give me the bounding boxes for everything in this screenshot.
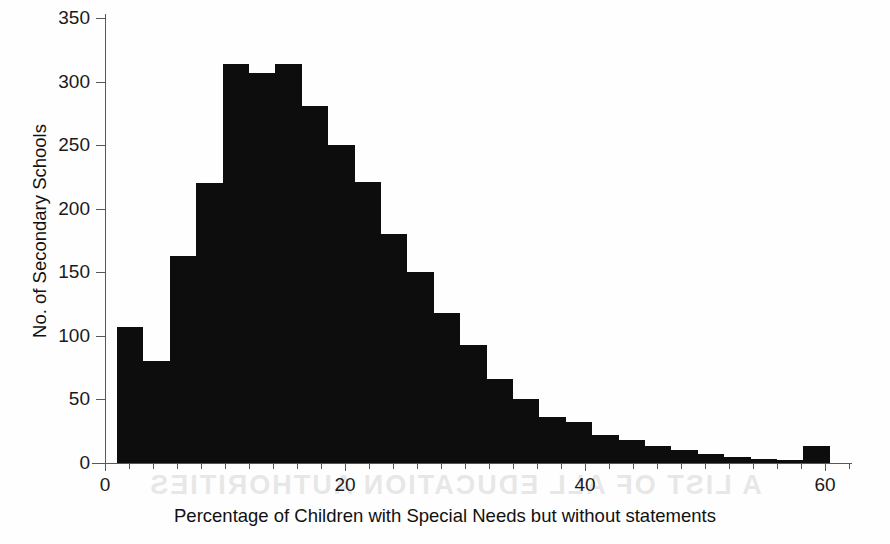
x-axis-minor-tick [465,463,466,469]
histogram-bar [170,256,196,463]
histogram-bar [487,379,513,463]
histogram-bar [803,446,829,463]
x-axis-minor-tick [321,463,322,469]
x-axis-minor-tick [681,463,682,469]
x-axis-minor-tick [777,463,778,469]
x-axis-major-tick [105,463,106,471]
histogram-bar [671,450,697,463]
x-axis-minor-tick [849,463,850,469]
y-axis-tick [96,336,105,337]
x-axis-minor-tick [753,463,754,469]
y-axis-title: No. of Secondary Schools [29,31,51,431]
x-axis-tick-label: 60 [795,474,855,496]
y-axis-tick-label: 0 [34,452,90,474]
y-axis-tick [96,272,105,273]
x-axis-minor-tick [729,463,730,469]
x-axis-minor-tick [177,463,178,469]
x-axis-minor-tick [633,463,634,469]
histogram-bar [117,327,143,463]
histogram-bar [513,399,539,463]
x-axis-minor-tick [297,463,298,469]
histogram-bar [249,73,275,463]
x-axis-minor-tick [129,463,130,469]
histogram-bar [196,183,222,463]
histogram-bar [143,361,169,463]
histogram-bar [381,234,407,463]
x-axis-minor-tick [513,463,514,469]
x-axis-minor-tick [201,463,202,469]
histogram-bar [645,446,671,463]
histogram-bar [592,435,618,463]
histogram-bar [328,145,354,463]
plot-area [105,18,837,463]
x-axis-minor-tick [489,463,490,469]
histogram-bar [724,457,750,463]
histogram-bar [275,64,301,463]
histogram-bar [619,440,645,463]
histogram-bar [751,459,777,463]
histogram-bar [355,182,381,463]
y-axis-tick [96,82,105,83]
histogram-figure: A LIST OF ALL EDUCATION AUTHORITIES 0501… [0,0,890,544]
y-axis-tick [96,399,105,400]
x-axis-tick-label: 20 [315,474,375,496]
x-axis-minor-tick [417,463,418,469]
x-axis-minor-tick [705,463,706,469]
x-axis-minor-tick [393,463,394,469]
x-axis-minor-tick [537,463,538,469]
y-axis-tick [96,145,105,146]
x-axis-minor-tick [561,463,562,469]
histogram-bar [302,106,328,463]
x-axis-tick-label: 0 [75,474,135,496]
x-axis-minor-tick [609,463,610,469]
x-axis-minor-tick [801,463,802,469]
x-axis-minor-tick [249,463,250,469]
x-axis-major-tick [825,463,826,471]
histogram-bar [777,460,803,463]
histogram-bar [407,272,433,463]
histogram-bar [223,64,249,463]
x-axis-tick-label: 40 [555,474,615,496]
x-axis-minor-tick [657,463,658,469]
y-axis-tick-label: 350 [34,7,90,29]
x-axis-minor-tick [153,463,154,469]
x-axis-minor-tick [369,463,370,469]
histogram-bar [460,345,486,463]
x-axis-line [92,463,852,464]
histogram-bar [698,454,724,463]
y-axis-tick [96,18,105,19]
x-axis-major-tick [585,463,586,471]
x-axis-title: Percentage of Children with Special Need… [0,505,890,527]
histogram-bar [566,422,592,463]
page-showthrough-text: A LIST OF ALL EDUCATION AUTHORITIES [60,470,850,501]
x-axis-minor-tick [441,463,442,469]
histogram-bar [539,417,565,463]
histogram-bar [434,313,460,463]
x-axis-minor-tick [273,463,274,469]
x-axis-minor-tick [225,463,226,469]
y-axis-tick [96,463,105,464]
x-axis-major-tick [345,463,346,471]
y-axis-tick [96,209,105,210]
